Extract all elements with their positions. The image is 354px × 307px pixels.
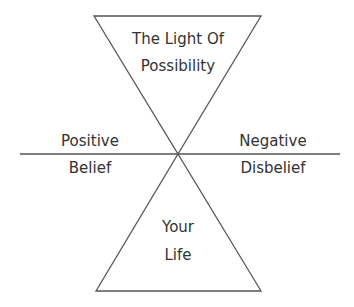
right-label-below: Disbelief (223, 159, 323, 177)
top-label-line2: Possibility (118, 57, 238, 75)
bottom-label-line2: Life (128, 246, 228, 264)
left-label-above: Positive (40, 132, 140, 150)
right-label-above: Negative (223, 132, 323, 150)
left-label-below: Belief (40, 159, 140, 177)
bottom-label-line1: Your (128, 218, 228, 236)
top-label-line1: The Light Of (118, 30, 238, 48)
